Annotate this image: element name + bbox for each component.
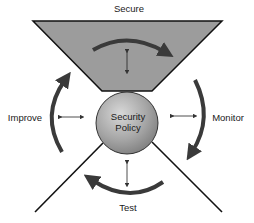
secure-wedge [33, 21, 222, 91]
test-cycle-arrow [92, 180, 163, 193]
improve-cycle-arrow [52, 80, 65, 152]
security-wheel-diagram: Secure Monitor Test Improve Security Pol… [0, 0, 254, 223]
center-line-2: Policy [111, 122, 145, 133]
bottom-right-line [152, 142, 222, 212]
security-policy-label: Security Policy [111, 111, 145, 133]
secure-label: Secure [114, 3, 144, 14]
bottom-left-line [35, 143, 103, 212]
test-label: Test [119, 202, 136, 213]
center-line-1: Security [111, 111, 145, 122]
monitor-label: Monitor [212, 112, 244, 123]
improve-label: Improve [8, 112, 42, 123]
